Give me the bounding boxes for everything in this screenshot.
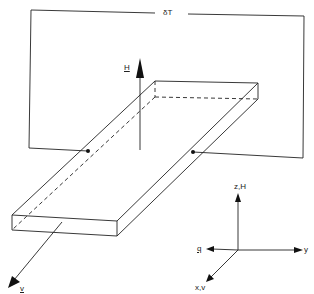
surface-boundary-right: [188, 14, 304, 158]
z-arrowhead-icon: [235, 193, 241, 202]
contact-point-right: [191, 150, 195, 154]
y-axis-label: y: [304, 246, 308, 254]
velocity-label: v: [20, 285, 24, 293]
y-arrowhead-icon: [294, 247, 303, 253]
q-axis-label: q: [197, 245, 201, 253]
slab-hidden-edges: [12, 81, 258, 230]
surface-boundary: [29, 10, 155, 151]
velocity-arrowhead-icon: [8, 276, 20, 288]
diagram-canvas: [0, 0, 314, 294]
slab-top: [12, 81, 258, 221]
q-arrowhead-icon: [206, 246, 214, 252]
contact-point-left: [86, 149, 90, 153]
field-label: H: [124, 64, 130, 72]
x-axis-label: x,v: [195, 284, 205, 292]
field-arrowhead-icon: [136, 58, 144, 78]
surface-label: δT: [161, 9, 174, 17]
slab-right-side: [117, 83, 258, 236]
z-axis-label: z,H: [234, 183, 246, 191]
